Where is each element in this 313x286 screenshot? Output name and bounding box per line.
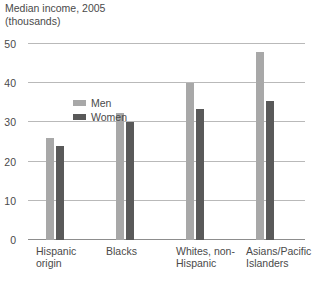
category-label-line: Islanders (246, 257, 313, 269)
bar-men (186, 83, 194, 240)
y-tick-label-40: 40 (0, 78, 16, 88)
legend-swatch-men-icon (73, 100, 86, 106)
bar-women (56, 146, 64, 240)
bar-men (116, 113, 124, 240)
chart-container: Median income, 2005 (thousands) 01020304… (0, 0, 313, 286)
category-label-line: Blacks (106, 245, 178, 257)
y-tick-label-50: 50 (0, 39, 16, 49)
category-label-line: Hispanic (176, 257, 248, 269)
bar-men (46, 138, 54, 240)
bar-men (256, 52, 264, 240)
bar-women (196, 109, 204, 240)
category-label-line: origin (36, 257, 108, 269)
chart-legend: Men Women (73, 96, 127, 124)
legend-swatch-women-icon (73, 114, 86, 120)
y-tick-label-0: 0 (0, 235, 16, 245)
chart-subtitle: (thousands) (5, 15, 105, 28)
plot-area: 01020304050 Men Women (28, 44, 305, 240)
category-label: Asians/PacificIslanders (246, 245, 313, 269)
y-tick-label-30: 30 (0, 117, 16, 127)
category-label-line: Whites, non- (176, 245, 248, 257)
bar-women (126, 122, 134, 240)
chart-title-block: Median income, 2005 (thousands) (5, 2, 105, 28)
category-label-line: Hispanic (36, 245, 108, 257)
legend-item-men: Men (73, 96, 127, 110)
category-label: Whites, non-Hispanic (176, 245, 248, 269)
category-label: Hispanicorigin (36, 245, 108, 269)
category-label: Blacks (106, 245, 178, 257)
y-tick-label-20: 20 (0, 157, 16, 167)
legend-label-men: Men (91, 98, 111, 109)
category-label-line: Asians/Pacific (246, 245, 313, 257)
chart-title: Median income, 2005 (5, 2, 105, 15)
legend-item-women: Women (73, 110, 127, 124)
bar-women (266, 101, 274, 240)
legend-label-women: Women (91, 112, 127, 123)
gridline-50 (28, 43, 305, 44)
y-tick-label-10: 10 (0, 196, 16, 206)
